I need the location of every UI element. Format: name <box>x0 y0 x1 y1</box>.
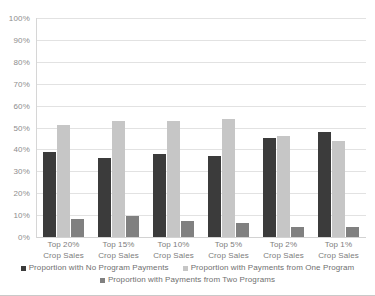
legend-row-2: Proportion with Payments from Two Progra… <box>0 274 375 286</box>
bar[interactable] <box>98 158 111 237</box>
x-axis-tick-label: Top 5%Crop Sales <box>201 240 256 261</box>
y-axis-tick-label: 70% <box>13 79 30 88</box>
x-axis-tick-label: Top 15%Crop Sales <box>91 240 146 261</box>
y-axis-labels: 100%90%80%70%60%50%40%30%20%10%0% <box>0 0 33 245</box>
x-axis-labels: Top 20%Crop SalesTop 15%Crop SalesTop 10… <box>36 240 366 261</box>
legend-label: Proportion with Payments from One Progra… <box>191 262 355 274</box>
x-axis-tick-label: Top 2%Crop Sales <box>256 240 311 261</box>
bar[interactable] <box>318 132 331 237</box>
legend-swatch-icon <box>183 266 188 271</box>
y-axis-tick-label: 60% <box>13 101 30 110</box>
bar-group <box>256 18 311 237</box>
bar-group <box>91 18 146 237</box>
bar[interactable] <box>346 227 359 237</box>
y-axis-tick-label: 100% <box>9 14 30 23</box>
bar[interactable] <box>277 136 290 237</box>
bar[interactable] <box>112 121 125 237</box>
x-axis-tick-label: Top 10%Crop Sales <box>146 240 201 261</box>
bar-group <box>311 18 366 237</box>
bar-group <box>146 18 201 237</box>
legend-swatch-icon <box>100 278 105 283</box>
y-axis-tick-label: 90% <box>13 35 30 44</box>
chart-legend: Proportion with No Program PaymentsPropo… <box>0 262 375 286</box>
legend-swatch-icon <box>21 266 26 271</box>
legend-label: Proportion with No Program Payments <box>29 262 169 274</box>
legend-item[interactable]: Proportion with No Program Payments <box>21 262 169 274</box>
y-axis-tick-label: 40% <box>13 145 30 154</box>
bar[interactable] <box>222 119 235 237</box>
y-axis-line <box>36 18 37 238</box>
bar[interactable] <box>71 219 84 237</box>
bar[interactable] <box>263 138 276 237</box>
x-axis-tick-label: Top 1%Crop Sales <box>311 240 366 261</box>
bar[interactable] <box>181 221 194 237</box>
legend-item[interactable]: Proportion with Payments from Two Progra… <box>100 274 275 286</box>
bar-group <box>36 18 91 237</box>
bar[interactable] <box>332 141 345 237</box>
legend-row-1: Proportion with No Program PaymentsPropo… <box>0 262 375 274</box>
bar-group <box>201 18 256 237</box>
y-axis-tick-label: 0% <box>18 233 30 242</box>
plot-area <box>36 18 366 237</box>
legend-label: Proportion with Payments from Two Progra… <box>108 274 275 286</box>
bar[interactable] <box>236 223 249 237</box>
x-axis-tick-label: Top 20%Crop Sales <box>36 240 91 261</box>
bar[interactable] <box>291 227 304 237</box>
bar[interactable] <box>167 121 180 237</box>
gridline <box>36 237 366 238</box>
y-axis-tick-label: 50% <box>13 123 30 132</box>
bar[interactable] <box>57 125 70 237</box>
y-axis-tick-label: 30% <box>13 167 30 176</box>
bar[interactable] <box>43 152 56 237</box>
legend-item[interactable]: Proportion with Payments from One Progra… <box>183 262 355 274</box>
y-axis-tick-label: 10% <box>13 211 30 220</box>
bar-groups <box>36 18 366 237</box>
bar[interactable] <box>126 216 139 237</box>
bar[interactable] <box>153 154 166 237</box>
bar[interactable] <box>208 156 221 237</box>
y-axis-tick-label: 80% <box>13 57 30 66</box>
y-axis-tick-label: 20% <box>13 189 30 198</box>
bar-chart: 100%90%80%70%60%50%40%30%20%10%0% Top 20… <box>0 0 375 296</box>
